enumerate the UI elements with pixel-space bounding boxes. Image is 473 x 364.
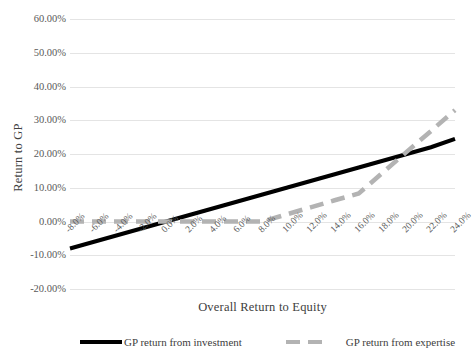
legend-item-investment[interactable]: GP return from investment bbox=[80, 336, 242, 348]
y-axis-tick-label: 40.00% bbox=[12, 82, 66, 92]
y-axis-tick-label: 30.00% bbox=[12, 115, 66, 125]
y-axis-tick-label: 60.00% bbox=[12, 14, 66, 24]
legend-label-expertise: GP return from expertise bbox=[346, 336, 455, 348]
legend-item-expertise[interactable]: GP return from expertise bbox=[286, 336, 455, 348]
y-axis-tick-label: 20.00% bbox=[12, 149, 66, 159]
chart-legend: GP return from investment GP return from… bbox=[70, 330, 460, 354]
series-lines bbox=[70, 19, 455, 289]
legend-swatch-solid-icon bbox=[80, 340, 122, 344]
y-axis-tick-label: 50.00% bbox=[12, 48, 66, 58]
gridline bbox=[70, 289, 455, 290]
y-axis-tick-label: 10.00% bbox=[12, 183, 66, 193]
series-line bbox=[70, 110, 455, 221]
y-axis-tick-labels: 60.00%50.00%40.00%30.00%20.00%10.00%0.00… bbox=[8, 0, 66, 300]
plot-area bbox=[70, 19, 455, 289]
y-axis-tick-label: -10.00% bbox=[12, 250, 66, 260]
legend-swatch-dashed-icon bbox=[286, 340, 328, 344]
legend-label-investment: GP return from investment bbox=[124, 336, 242, 348]
x-axis-title: Overall Return to Equity bbox=[70, 300, 455, 315]
y-axis-tick-label: -20.00% bbox=[12, 284, 66, 294]
y-axis-tick-label: 0.00% bbox=[12, 217, 66, 227]
